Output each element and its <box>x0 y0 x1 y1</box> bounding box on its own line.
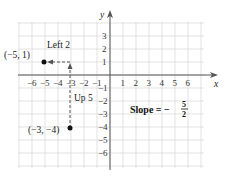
y-tick-label: −6 <box>98 148 108 158</box>
y-tick-label: −2 <box>98 96 108 106</box>
x-tick-label: 5 <box>173 78 178 88</box>
y-tick-label: −3 <box>98 109 108 119</box>
point-a-label: (−5, 1) <box>4 50 30 61</box>
x-tick-label: 6 <box>186 78 191 88</box>
x-tick-label: 2 <box>134 78 139 88</box>
y-tick-label: −5 <box>98 135 108 145</box>
slope-annotation: Slope = − 5 2 <box>130 100 188 119</box>
left-arrow-icon <box>47 60 53 65</box>
x-tick-label: −2 <box>79 78 89 88</box>
x-tick-labels: −6−5−4−3−2−1123456 <box>27 78 191 88</box>
x-tick-label: 4 <box>160 78 165 88</box>
x-axis-label: x <box>213 79 219 89</box>
y-tick-label: 2 <box>102 44 107 54</box>
coordinate-plane: x y −6−5−4−3−2−1123456 321−1−2−3−4−5−6 L… <box>0 0 230 181</box>
x-tick-label: 3 <box>147 78 152 88</box>
up-annotation: Up 5 <box>74 93 93 103</box>
y-tick-labels: 321−1−2−3−4−5−6 <box>98 31 108 158</box>
point-b <box>68 126 73 131</box>
x-tick-label: 1 <box>121 78 126 88</box>
up-arrow-icon <box>68 63 73 69</box>
y-axis-label: y <box>99 10 105 20</box>
left-annotation: Left 2 <box>47 40 70 50</box>
x-tick-label: −3 <box>66 78 76 88</box>
x-tick-label: −5 <box>40 78 50 88</box>
x-tick-label: −6 <box>27 78 37 88</box>
svg-text:5: 5 <box>182 100 186 109</box>
axes: x y <box>18 10 219 170</box>
grid <box>18 22 204 168</box>
svg-text:2: 2 <box>182 110 186 119</box>
y-tick-label: 3 <box>102 31 107 41</box>
x-tick-label: −4 <box>53 78 63 88</box>
y-tick-label: 1 <box>102 57 107 67</box>
point-b-label: (−3, −4) <box>28 125 59 136</box>
y-tick-label: −1 <box>98 83 108 93</box>
svg-text:Slope = −: Slope = − <box>130 104 170 115</box>
y-tick-label: −4 <box>98 122 108 132</box>
point-a <box>42 60 47 65</box>
